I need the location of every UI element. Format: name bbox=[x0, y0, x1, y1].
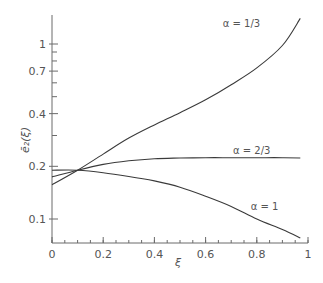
x-tick-label: 0.4 bbox=[146, 248, 164, 261]
x-tick-label: 0.8 bbox=[248, 248, 266, 261]
curve-series-0 bbox=[52, 18, 300, 184]
y-tick-label: 0.1 bbox=[29, 213, 47, 226]
y-tick-label: 0.7 bbox=[29, 65, 47, 78]
x-tick-label: 1 bbox=[305, 248, 312, 261]
x-tick-label: 0.2 bbox=[94, 248, 112, 261]
curve-series-1 bbox=[52, 158, 300, 177]
y-tick-label: 0.2 bbox=[29, 160, 47, 173]
y-axis-title: ē₂(ξ) bbox=[19, 127, 32, 153]
curve-label-0: α = 1/3 bbox=[223, 18, 260, 29]
x-axis-title: ξ bbox=[174, 256, 182, 269]
chart: 00.20.40.60.810.10.20.40.71 α = 1/3α = 2… bbox=[0, 0, 323, 283]
curve-label-1: α = 2/3 bbox=[233, 145, 270, 156]
y-tick-label: 1 bbox=[39, 38, 46, 51]
curve-labels: α = 1/3α = 2/3α = 1 bbox=[223, 18, 279, 212]
curve-label-2: α = 1 bbox=[251, 201, 279, 212]
line-chart-svg: 00.20.40.60.810.10.20.40.71 α = 1/3α = 2… bbox=[0, 0, 323, 283]
x-tick-label: 0 bbox=[49, 248, 56, 261]
y-tick-label: 0.4 bbox=[29, 108, 47, 121]
x-tick-label: 0.6 bbox=[197, 248, 215, 261]
